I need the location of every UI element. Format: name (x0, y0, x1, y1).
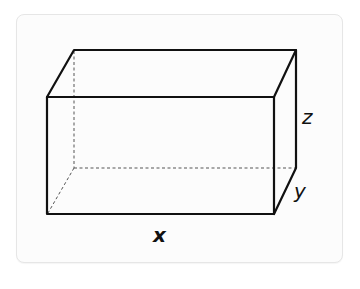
label-x: x (152, 223, 167, 247)
label-y: y (293, 179, 307, 203)
rectangular-prism-diagram: z y x (0, 0, 360, 289)
hidden-edge-bottom-left-depth (48, 168, 74, 213)
front-face (47, 97, 274, 214)
label-z: z (301, 105, 313, 129)
hidden-edges (48, 51, 296, 213)
top-face-edges (47, 50, 296, 97)
